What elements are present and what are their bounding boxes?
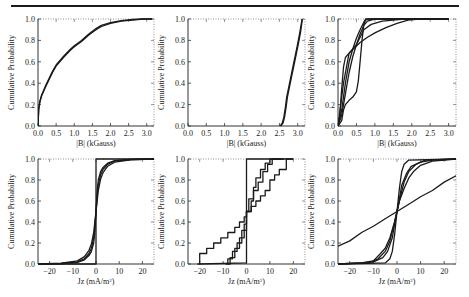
y-tick-label: 0.8 [175, 176, 185, 185]
y-tick-label: 0.4 [25, 218, 35, 227]
y-tick-label: 0.0 [325, 260, 335, 269]
figure: 0.00.20.40.60.81.00.00.51.01.52.02.53.0|… [0, 0, 469, 297]
x-tick-label: 0 [395, 267, 399, 276]
x-tick-label: 0 [94, 267, 98, 276]
x-tick-label: 0 [245, 267, 249, 276]
panel-top-middle: 0.00.20.40.60.81.00.00.51.01.52.02.53.0|… [157, 15, 305, 148]
x-tick-label: 0.0 [183, 129, 193, 138]
series-cdf-wide [197, 159, 293, 264]
panel-bottom-right: 0.00.20.40.60.81.0−20−1001020Jz (mA/m2)C… [307, 155, 456, 286]
y-tick-label: 0.4 [25, 79, 35, 88]
series-cdf-2 [38, 19, 152, 126]
x-tick-label: 20 [440, 267, 448, 276]
y-tick-label: 0.4 [325, 79, 335, 88]
y-tick-label: 0.8 [25, 176, 35, 185]
y-tick-label: 0.0 [175, 260, 185, 269]
y-axis-label: Cumulative Probability [7, 174, 16, 249]
y-tick-label: 1.0 [325, 155, 335, 164]
x-tick-label: −10 [217, 267, 230, 276]
x-tick-label: −20 [43, 267, 56, 276]
x-tick-label: 1.0 [220, 129, 230, 138]
x-tick-label: 1.0 [370, 129, 380, 138]
y-tick-label: 0.4 [325, 218, 335, 227]
y-tick-label: 0.2 [175, 101, 185, 110]
x-tick-label: 0.0 [33, 129, 43, 138]
x-tick-label: 20 [289, 267, 297, 276]
y-tick-label: 0.4 [175, 79, 185, 88]
y-tick-label: 0.0 [25, 260, 35, 269]
y-tick-label: 0.6 [25, 197, 35, 206]
x-tick-label: 3.0 [142, 129, 152, 138]
x-tick-label: 3.0 [444, 129, 454, 138]
x-tick-label: −10 [367, 267, 380, 276]
series-cdf-b [338, 19, 449, 126]
y-tick-label: 0.8 [325, 36, 335, 45]
panels: 0.00.20.40.60.81.00.00.51.01.52.02.53.0|… [7, 15, 456, 286]
y-tick-label: 0.8 [325, 176, 335, 185]
y-tick-label: 1.0 [175, 15, 185, 24]
y-tick-label: 0.6 [25, 58, 35, 67]
series-cdf-a [338, 19, 449, 126]
y-tick-label: 0.2 [25, 239, 35, 248]
x-tick-label: 10 [417, 267, 425, 276]
x-tick-label: 10 [266, 267, 274, 276]
y-tick-label: 1.0 [25, 155, 35, 164]
x-tick-label: 0.0 [333, 129, 343, 138]
y-tick-label: 0.2 [25, 101, 35, 110]
y-tick-label: 1.0 [325, 15, 335, 24]
x-tick-label: −20 [344, 267, 357, 276]
series-cdf-c [338, 19, 449, 126]
y-axis-label: Cumulative Probability [307, 174, 316, 249]
y-tick-label: 0.2 [325, 239, 335, 248]
y-tick-label: 0.2 [175, 239, 185, 248]
x-tick-label: 2.0 [407, 129, 417, 138]
y-axis-label: Cumulative Probability [157, 35, 166, 110]
y-axis-label: Cumulative Probability [7, 35, 16, 110]
chart-grid: 0.00.20.40.60.81.00.00.51.01.52.02.53.0|… [0, 0, 469, 297]
x-tick-label: 2.0 [256, 129, 266, 138]
series-cdf-mid-1 [225, 159, 281, 264]
y-axis-label: Cumulative Probability [307, 35, 316, 110]
y-tick-label: 1.0 [175, 155, 185, 164]
x-axis-label: Jz (mA/m2) [379, 277, 416, 286]
panel-bottom-left: 0.00.20.40.60.81.0−20−1001020Jz (mA/m2)C… [7, 155, 154, 286]
x-tick-label: 0.5 [201, 129, 211, 138]
series-cdf-e [338, 19, 449, 126]
y-tick-label: 0.6 [325, 58, 335, 67]
series-cdf-1 [38, 19, 152, 126]
y-tick-label: 0.8 [175, 36, 185, 45]
x-tick-label: 1.5 [87, 129, 97, 138]
y-axis-label: Cumulative Probability [157, 174, 166, 249]
y-tick-label: 0.6 [325, 197, 335, 206]
x-tick-label: −10 [67, 267, 80, 276]
y-tick-label: 0.2 [325, 101, 335, 110]
x-axis-label: |B| (kGauss) [227, 139, 267, 148]
x-axis-label: |B| (kGauss) [377, 139, 417, 148]
series-cdf-1 [280, 19, 302, 126]
panel-top-left: 0.00.20.40.60.81.00.00.51.01.52.02.53.0|… [7, 15, 154, 148]
x-tick-label: 20 [138, 267, 146, 276]
y-tick-label: 0.8 [25, 36, 35, 45]
x-tick-label: 2.5 [274, 129, 284, 138]
x-tick-label: 0.5 [51, 129, 61, 138]
x-tick-label: −20 [193, 267, 206, 276]
x-tick-label: 0.5 [351, 129, 361, 138]
x-axis-label: Jz (mA/m2) [228, 277, 265, 286]
series-cdf-3 [338, 159, 456, 264]
x-tick-label: 10 [115, 267, 123, 276]
x-axis-label: |B| (kGauss) [76, 139, 116, 148]
y-tick-label: 0.4 [175, 218, 185, 227]
x-tick-label: 2.5 [124, 129, 134, 138]
y-tick-label: 0.6 [175, 58, 185, 67]
panel-top-right: 0.00.20.40.60.81.00.00.51.01.52.02.53.0|… [307, 15, 456, 148]
x-tick-label: 2.0 [106, 129, 116, 138]
x-tick-label: 1.5 [238, 129, 248, 138]
y-tick-label: 1.0 [25, 15, 35, 24]
panel-bottom-middle: 0.00.20.40.60.81.0−20−1001020Jz (mA/m2)C… [157, 155, 305, 286]
x-tick-label: 1.0 [69, 129, 79, 138]
x-axis-label: Jz (mA/m2) [78, 277, 115, 286]
x-tick-label: 2.5 [425, 129, 435, 138]
x-tick-label: 1.5 [388, 129, 398, 138]
x-tick-label: 3.0 [293, 129, 303, 138]
y-tick-label: 0.6 [175, 197, 185, 206]
